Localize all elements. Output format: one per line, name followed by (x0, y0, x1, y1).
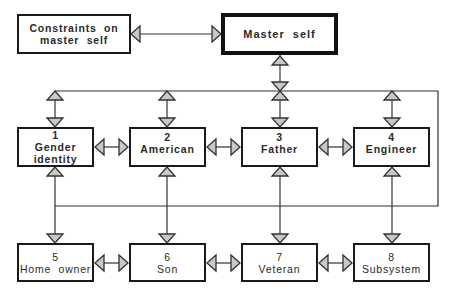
node-subsystem: 8 Subsystem (353, 243, 430, 282)
node-label: Father (261, 143, 298, 155)
master-self-label: Master self (243, 28, 316, 40)
arrowhead-down-icon (272, 118, 288, 127)
arrowhead-down-icon (272, 234, 288, 243)
node-gender-identity: 1 Gender identity (17, 127, 94, 167)
master-self-box: Master self (221, 13, 338, 55)
node-number: 3 (276, 131, 283, 143)
arrowhead-left-icon (95, 139, 104, 155)
arrowhead-down-icon (384, 234, 400, 243)
constraints-label-line1: Constraints on (29, 22, 118, 34)
node-home-owner: 5 Home owner (17, 243, 94, 282)
arrowhead-left-icon (95, 255, 104, 271)
arrowhead-down-icon (47, 234, 63, 243)
node-number: 8 (388, 251, 395, 263)
arrowhead-left-icon (319, 255, 328, 271)
arrowhead-down-icon (384, 118, 400, 127)
node-label-line2: identity (34, 153, 78, 165)
node-number: 7 (276, 251, 283, 263)
arrowhead-up-icon (272, 91, 288, 100)
arrowhead-down-icon (159, 234, 175, 243)
identity-diagram: Constraints on master self Master self 1… (0, 0, 450, 297)
node-label: Gender (35, 141, 77, 153)
arrowhead-up-icon (272, 167, 288, 176)
arrowhead-right-icon (231, 139, 240, 155)
node-engineer: 4 Engineer (353, 127, 430, 167)
node-label: Son (157, 263, 178, 275)
node-veteran: 7 Veteran (241, 243, 318, 282)
arrowhead-left-icon (319, 139, 328, 155)
arrowhead-up-icon (47, 91, 63, 100)
node-number: 2 (164, 131, 171, 143)
node-number: 4 (388, 131, 395, 143)
arrowhead-right-icon (119, 255, 128, 271)
node-label: Home owner (20, 263, 91, 275)
node-number: 5 (52, 251, 59, 263)
node-father: 3 Father (241, 127, 318, 167)
arrowhead-right-icon (119, 139, 128, 155)
arrowhead-left-icon (207, 139, 216, 155)
arrowhead-down-icon (47, 118, 63, 127)
arrowhead-right-icon (212, 26, 221, 42)
arrowhead-right-icon (343, 139, 352, 155)
arrowhead-up-icon (159, 91, 175, 100)
node-label: Engineer (366, 143, 417, 155)
arrowhead-up-icon (272, 56, 288, 65)
arrowhead-right-icon (231, 255, 240, 271)
node-american: 2 American (129, 127, 206, 167)
node-number: 1 (52, 129, 59, 141)
arrowhead-up-icon (159, 167, 175, 176)
arrowhead-left-icon (207, 255, 216, 271)
arrowhead-up-icon (47, 167, 63, 176)
constraints-label-line2: master self (40, 34, 108, 46)
arrowhead-left-icon (131, 26, 140, 42)
arrowhead-right-icon (343, 255, 352, 271)
node-label: Veteran (259, 263, 301, 275)
arrowhead-down-icon (272, 82, 288, 91)
arrowhead-down-icon (159, 118, 175, 127)
node-label: Subsystem (362, 263, 421, 275)
arrowhead-up-icon (384, 167, 400, 176)
node-number: 6 (164, 251, 171, 263)
node-label: American (140, 143, 194, 155)
node-son: 6 Son (129, 243, 206, 282)
arrowhead-up-icon (384, 91, 400, 100)
constraints-box: Constraints on master self (17, 14, 131, 54)
